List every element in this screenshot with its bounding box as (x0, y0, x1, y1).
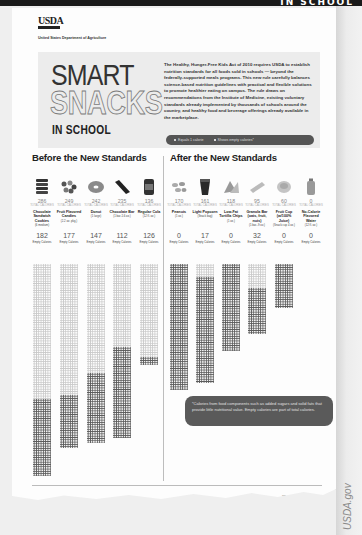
after-item-0: 170TOTAL CALORIESPeanuts(1 oz.) (166, 178, 192, 219)
food-name: No-Calorie Flavored Water (298, 210, 324, 223)
school-day-healthier-logo: ◉ The School Day Healthier (266, 493, 317, 511)
usda-logo: USDA (38, 15, 60, 29)
calorie-dot-column (60, 264, 78, 448)
food-name: Chocolate Sandwich Cookies (29, 210, 55, 223)
legend-item-empty: Shows empty calories* (214, 138, 254, 142)
water-bottle-icon (302, 178, 320, 196)
empty-calorie-dots (248, 264, 266, 288)
after-section-title: After the New Standards (170, 152, 277, 163)
calorie-dot-column (170, 264, 188, 390)
donut-icon (87, 178, 105, 196)
apple-icon: ◉ (266, 497, 279, 508)
before-item-0: 286TOTAL CALORIESChocolate Sandwich Cook… (29, 178, 55, 227)
total-calories-label: TOTAL CALORIES (192, 204, 218, 207)
after-item-3: 95TOTAL CALORIESGranola Bar (oats, fruit… (244, 178, 270, 227)
nutritive-calorie-dots (140, 357, 158, 364)
calorie-dot-column (87, 264, 105, 443)
empty-calories-label: Empty Calories (83, 241, 109, 244)
equal-opportunity-statement: USDA is an equal opportunity provider an… (34, 504, 95, 507)
nutritive-calorie-dots (275, 264, 293, 308)
total-calories-label: TOTAL CALORIES (271, 204, 297, 207)
empty-calories-label: Empty Calories (166, 241, 192, 244)
empty-calories-value: 112 (109, 232, 135, 239)
empty-dot-icon (214, 139, 216, 141)
campaign-line2: Healthier (282, 505, 317, 511)
empty-calories-value: 147 (83, 232, 109, 239)
infographic-page: USDA United States Department of Agricul… (12, 8, 336, 504)
before-item-2: 242TOTAL CALORIESDonut(1 large) (83, 178, 109, 219)
empty-calorie-dots (113, 264, 131, 347)
campaign-line1: School Day (282, 499, 317, 505)
nutritive-calorie-dots (33, 399, 51, 476)
food-serving: (1 bar-1.6 oz.) (109, 215, 135, 218)
nutritive-calorie-dots (87, 373, 105, 443)
total-calories-label: TOTAL CALORIES (83, 204, 109, 207)
empty-calories-value: 0 (218, 232, 244, 239)
total-calories-label: TOTAL CALORIES (56, 204, 82, 207)
calorie-dot-column (33, 264, 51, 476)
empty-calorie-dots (87, 264, 105, 373)
food-serving: (Snack bag) (192, 215, 218, 218)
granola-bar-icon (248, 178, 266, 196)
empty-calories-value: 32 (244, 232, 270, 239)
total-calories-label: TOTAL CALORIES (218, 204, 244, 207)
nutritive-calorie-dots (170, 264, 188, 390)
food-serving: (12 fl. oz.) (298, 224, 324, 227)
food-serving: (Snack cup 4 oz.) (271, 224, 297, 227)
after-item-4: 60TOTAL CALORIESFruit Cup (w/100% Juice)… (271, 178, 297, 227)
calorie-dot-column (248, 264, 266, 334)
title-in-school: IN SCHOOL (52, 123, 111, 137)
empty-calories-label: Empty Calories (271, 241, 297, 244)
total-calories-label: TOTAL CALORIES (29, 204, 55, 207)
footnote-text: *Calories from food components such as a… (192, 401, 326, 412)
empty-calories-label: Empty Calories (218, 241, 244, 244)
legend-item-calorie: Equals 1 calorie (174, 138, 204, 142)
before-item-4: 136TOTAL CALORIESRegular Cola(12 fl. oz.… (136, 178, 162, 219)
nutritive-calorie-dots (60, 395, 78, 448)
food-serving: (1 large) (83, 215, 109, 218)
title-snacks: SNACKS (50, 86, 162, 118)
total-calories-label: TOTAL CALORIES (166, 204, 192, 207)
hero-box: SMART SNACKS IN SCHOOL The Healthy, Hung… (38, 52, 320, 148)
empty-calories-value: 17 (192, 232, 218, 239)
page-shadow (336, 6, 362, 535)
top-strip: IN SCHOOL (0, 0, 362, 6)
after-item-1: 161TOTAL CALORIESLight Popcorn(Snack bag… (192, 178, 218, 219)
total-calories-label: TOTAL CALORIES (136, 204, 162, 207)
empty-calories-value: 126 (136, 232, 162, 239)
before-item-1: 249TOTAL CALORIESFruit Flavored Candies(… (56, 178, 82, 223)
calorie-dot-column (196, 264, 214, 383)
campaign-small: The (282, 493, 317, 499)
peanuts-icon (170, 178, 188, 196)
usda-logo-text: USDA (38, 15, 60, 29)
food-serving: (2.2 oz. pkg.) (56, 220, 82, 223)
nutritive-calorie-dots (196, 277, 214, 384)
food-serving: (6 medium) (29, 224, 55, 227)
empty-calories-value: 0 (166, 232, 192, 239)
food-serving: (1 oz.) (166, 215, 192, 218)
food-name: Fruit Cup (w/100% Juice) (271, 210, 297, 223)
nutritive-calorie-dots (222, 264, 240, 351)
popcorn-icon (196, 178, 214, 196)
before-section-title: Before the New Standards (32, 152, 147, 163)
calorie-dot-column (113, 264, 131, 438)
candy-icon (60, 178, 78, 196)
empty-calories-label: Empty Calories (109, 241, 135, 244)
nutritive-calorie-dots (113, 347, 131, 438)
food-serving: (1 bar-.9 oz.) (244, 224, 270, 227)
empty-calories-value: 0 (298, 232, 324, 239)
empty-calories-label: Empty Calories (192, 241, 218, 244)
department-name: United States Department of Agriculture (38, 36, 106, 40)
empty-calories-label: Empty Calories (298, 241, 324, 244)
calorie-dot-column (275, 264, 293, 308)
tortilla-chips-icon (222, 178, 240, 196)
empty-calories-label: Empty Calories (136, 241, 162, 244)
usda-gov-watermark: USDA.gov (342, 483, 353, 530)
empty-calories-label: Empty Calories (29, 241, 55, 244)
fruit-cup-icon (275, 178, 293, 196)
empty-calorie-dots (140, 264, 158, 357)
section-divider (163, 156, 164, 481)
filled-dot-icon (174, 139, 176, 141)
empty-calorie-dots (33, 264, 51, 399)
total-calories-label: TOTAL CALORIES (109, 204, 135, 207)
